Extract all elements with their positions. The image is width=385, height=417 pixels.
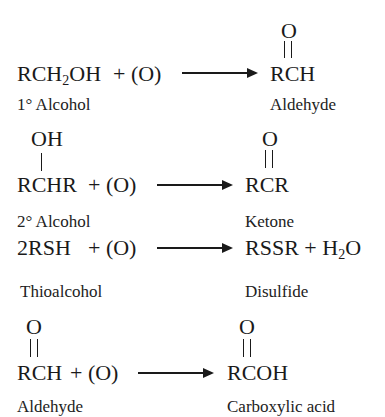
reaction-arrow [157, 184, 231, 186]
oxidant: + (O) [70, 362, 118, 384]
reactant-label: Thioalcohol [20, 283, 102, 300]
product-label: Disulfide [245, 283, 308, 300]
product-label: Aldehyde [270, 96, 336, 113]
double-bond [265, 150, 273, 168]
product-oxygen: O [281, 20, 297, 42]
reaction-arrow [182, 72, 256, 74]
reaction-arrow [138, 372, 212, 374]
reactant-formula: RCH [17, 362, 62, 384]
oxidant: + (O) [88, 237, 136, 259]
product-formula: RCH [270, 63, 315, 85]
product-label: Carboxylic acid [227, 398, 335, 415]
reactant-formula: RCH2OH [17, 63, 101, 85]
double-bond [243, 339, 251, 357]
oxidant: + (O) [88, 174, 136, 196]
product-formula: RSSR + H2O [245, 237, 361, 259]
double-bond [30, 339, 38, 357]
product-label: Ketone [245, 213, 294, 230]
reactant-formula: 2RSH [17, 237, 71, 259]
product-formula: RCR [245, 174, 289, 196]
reactant-label: 2° Alcohol [17, 213, 90, 230]
reactant-label: 1° Alcohol [17, 96, 90, 113]
oxidant: + (O) [113, 63, 161, 85]
single-bond [41, 153, 42, 171]
reaction-arrow [157, 247, 231, 249]
reactant-oxygen: O [26, 316, 42, 338]
reactant-label: Aldehyde [17, 398, 83, 415]
reactant-hydroxyl: OH [31, 128, 63, 150]
product-formula: RCOH [227, 362, 288, 384]
product-oxygen: O [262, 128, 278, 150]
reactant-formula: RCHR [17, 174, 77, 196]
double-bond [284, 41, 292, 58]
product-oxygen: O [239, 316, 255, 338]
